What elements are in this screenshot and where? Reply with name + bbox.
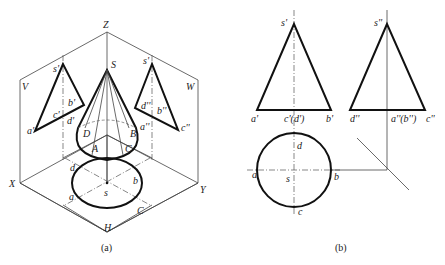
svg-text:s: s [104, 187, 108, 198]
svg-text:s'': s'' [374, 17, 383, 28]
svg-text:B: B [130, 128, 136, 139]
caption-a: (a) [101, 242, 112, 254]
svg-text:s: s [286, 173, 290, 184]
svg-text:d: d [297, 140, 303, 151]
svg-text:a''(b''): a''(b'') [391, 113, 417, 125]
svg-text:D: D [82, 128, 91, 139]
svg-text:b: b [133, 175, 138, 186]
svg-text:s': s' [281, 17, 288, 28]
svg-text:b'': b'' [157, 105, 167, 116]
svg-text:c'(d'): c'(d') [284, 113, 305, 125]
v-projection-triangle [35, 64, 84, 131]
svg-text:c'': c'' [181, 122, 191, 133]
x-label: X [8, 178, 16, 189]
h-label: H [103, 222, 112, 233]
svg-text:c: c [298, 206, 303, 217]
svg-text:a: a [69, 191, 74, 202]
svg-text:b': b' [326, 113, 334, 124]
side-view-triangle [350, 24, 425, 110]
svg-text:b: b [334, 171, 339, 182]
svg-text:d': d' [67, 115, 75, 126]
svg-text:c': c' [53, 109, 60, 120]
svg-text:A: A [91, 143, 99, 154]
svg-text:b': b' [68, 97, 76, 108]
z-label: Z [103, 19, 109, 30]
figure-a: Z X Y H V W S D B A C s' a' b' c' d' s' … [8, 19, 207, 254]
svg-text:a: a [252, 169, 257, 180]
y-label: Y [200, 184, 207, 195]
svg-text:a': a' [27, 125, 35, 136]
svg-text:a': a' [251, 113, 259, 124]
svg-text:C: C [125, 143, 132, 154]
svg-text:a'': a'' [140, 121, 150, 132]
cone-projection-diagram: Z X Y H V W S D B A C s' a' b' c' d' s' … [0, 0, 445, 265]
svg-text:s': s' [143, 55, 150, 66]
svg-text:s': s' [53, 63, 60, 74]
v-label: V [22, 81, 30, 92]
svg-text:S: S [111, 59, 116, 70]
figure-b: s' a' c'(d') b' s'' d'' a''(b'') c'' d a… [247, 10, 436, 254]
svg-text:C: C [137, 205, 144, 216]
caption-b: (b) [335, 242, 347, 254]
svg-text:d'': d'' [350, 113, 360, 124]
w-label: W [186, 81, 196, 92]
svg-text:c'': c'' [426, 113, 436, 124]
svg-text:d'': d'' [141, 100, 151, 111]
